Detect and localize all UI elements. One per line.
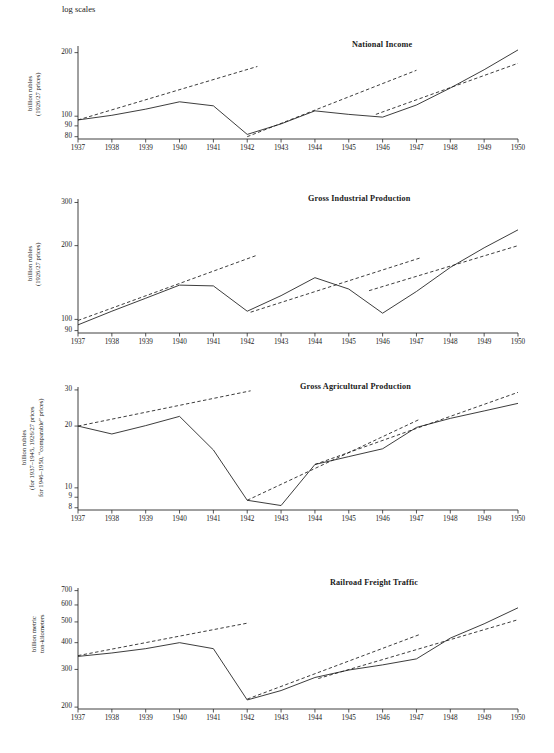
figure-page: log scales billion rubles (1926/27 price… <box>0 0 554 753</box>
trend-line-wartime-recovery-trend <box>247 634 420 699</box>
plot-area <box>0 0 554 753</box>
trend-line-prewar-trend <box>78 623 249 656</box>
trend-line-postwar-trend <box>318 620 518 679</box>
data-line-actual <box>78 608 518 700</box>
